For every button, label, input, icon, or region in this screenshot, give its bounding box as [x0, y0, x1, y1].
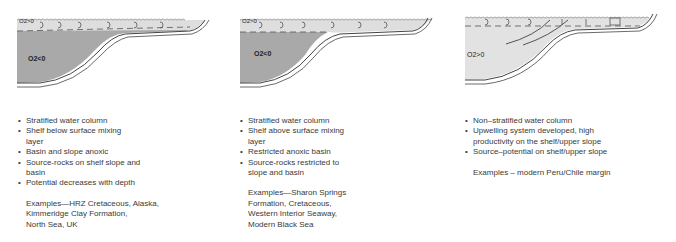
bullet-item: Source-rocks restricted to slope and bas…	[240, 158, 348, 179]
bullet-item: Source-rocks on shelf slope and basin	[18, 158, 141, 179]
deep-oxygen-label: O2<0	[28, 55, 45, 62]
examples-text: Examples – modern Peru/Chile margin	[465, 168, 670, 178]
examples-text: Examples—Sharon Springs Formation, Creta…	[240, 188, 440, 230]
oxygen-label: O2>0	[467, 51, 484, 58]
bullet-item: Potential decreases with depth	[18, 178, 218, 188]
cross-section-diagram-1	[0, 0, 225, 100]
bullet-item: Basin and slope anoxic	[18, 147, 218, 157]
examples-text: Examples—HRZ Cretaceous, Alaska, Kimmeri…	[18, 199, 218, 230]
bullet-item: Stratified water column	[18, 116, 218, 126]
bullet-item: Source–potential on shelf/upper slope	[465, 147, 670, 157]
panel-upwelling: O2>0 Non–stratified water column Upwelli…	[450, 0, 675, 242]
panel-shelf-above-mixing: O2>0 O2<0 Stratified water column Shelf …	[225, 0, 450, 242]
bullet-item: Upwelling system developed, high product…	[465, 126, 633, 147]
bullet-item: Stratified water column	[240, 116, 440, 126]
surface-oxygen-label: O2>0	[242, 18, 257, 24]
bullet-item: Shelf above surface mixing layer	[240, 126, 363, 147]
bullet-item: Restricted anoxic basin	[240, 147, 440, 157]
panel-description-1: Stratified water column Shelf below surf…	[18, 116, 218, 230]
bullet-item: Shelf below surface mixing layer	[18, 126, 126, 147]
panel-description-3: Non–stratified water column Upwelling sy…	[465, 116, 670, 178]
panel-shelf-below-mixing: O2>0 O2<0 Stratified water column Shelf …	[0, 0, 225, 242]
surface-oxygen-label: O2>0	[19, 18, 34, 24]
panel-description-2: Stratified water column Shelf above surf…	[240, 116, 440, 230]
bullet-item: Non–stratified water column	[465, 116, 670, 126]
cross-section-diagram-3	[450, 0, 676, 100]
deep-oxygen-label: O2<0	[254, 50, 271, 57]
